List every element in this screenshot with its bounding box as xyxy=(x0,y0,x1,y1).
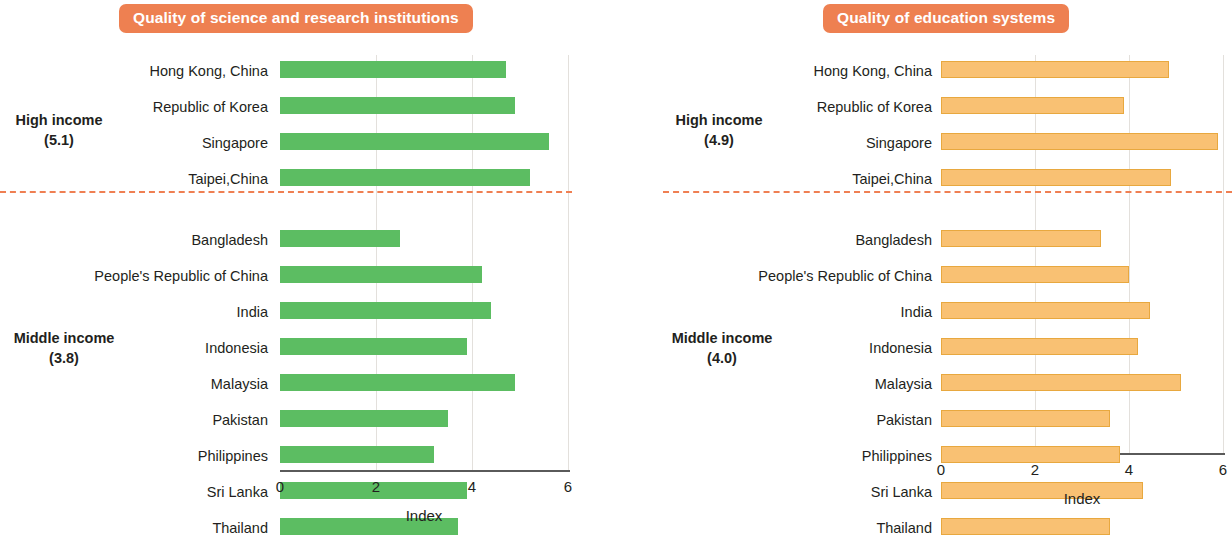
chart-panel-education: Quality of education systems High income… xyxy=(616,0,1232,528)
bar-row xyxy=(280,230,572,247)
category-label-indonesia: Indonesia xyxy=(869,341,932,356)
bar-row xyxy=(941,97,1223,114)
bar-philippines xyxy=(280,446,434,463)
bar-bangladesh xyxy=(280,230,400,247)
category-label-taipei-china: Taipei,China xyxy=(852,172,932,187)
category-label-thailand: Thailand xyxy=(212,521,268,536)
bar-malaysia xyxy=(280,374,515,391)
category-label-pakistan: Pakistan xyxy=(876,413,932,428)
x-axis-title: Index xyxy=(406,507,443,524)
gridline-6 xyxy=(1223,55,1224,453)
x-axis-line xyxy=(280,470,570,472)
x-tick-6: 6 xyxy=(564,478,572,495)
category-label-india: India xyxy=(901,305,932,320)
category-label-people-s-republic-of-china: People's Republic of China xyxy=(94,269,268,284)
bar-hong-kong-china xyxy=(941,61,1169,78)
gridline-2 xyxy=(376,55,377,470)
bar-republic-of-korea xyxy=(280,97,515,114)
gridline-4 xyxy=(1129,55,1130,453)
group-label-middle-income-text: Middle income xyxy=(14,330,115,346)
bar-bangladesh xyxy=(941,230,1101,247)
bar-row xyxy=(280,482,572,499)
chart-title-badge-science: Quality of science and research institut… xyxy=(119,4,473,33)
category-label-malaysia: Malaysia xyxy=(211,377,268,392)
bar-row xyxy=(941,266,1223,283)
x-tick-0: 0 xyxy=(937,461,945,478)
chart-title-badge-education: Quality of education systems xyxy=(823,4,1069,33)
plot-area-education xyxy=(941,55,1223,453)
bar-taipei-china xyxy=(280,169,530,186)
income-group-divider-science xyxy=(0,191,572,193)
bar-row xyxy=(280,133,572,150)
bar-row xyxy=(280,338,572,355)
gridline-2 xyxy=(1035,55,1036,453)
group-label-middle-income-science: Middle income (3.8) xyxy=(0,329,128,368)
chart-panel-science: Quality of science and research institut… xyxy=(0,0,616,528)
category-label-people-s-republic-of-china: People's Republic of China xyxy=(758,269,932,284)
bar-row xyxy=(280,410,572,427)
group-label-middle-income-education: Middle income (4.0) xyxy=(658,329,786,368)
category-label-taipei-china: Taipei,China xyxy=(188,172,268,187)
bar-people-s-republic-of-china xyxy=(941,266,1129,283)
x-tick-6: 6 xyxy=(1219,461,1227,478)
bar-india xyxy=(941,302,1150,319)
bar-row xyxy=(280,266,572,283)
bar-indonesia xyxy=(280,338,467,355)
bar-row xyxy=(941,61,1223,78)
bar-row xyxy=(941,133,1223,150)
bar-india xyxy=(280,302,491,319)
bar-row xyxy=(280,374,572,391)
category-label-thailand: Thailand xyxy=(876,521,932,536)
category-label-republic-of-korea: Republic of Korea xyxy=(153,100,268,115)
category-label-pakistan: Pakistan xyxy=(212,413,268,428)
category-label-hong-kong-china: Hong Kong, China xyxy=(814,64,933,79)
bar-thailand xyxy=(941,518,1110,535)
income-group-divider-education xyxy=(663,191,1232,193)
bar-row xyxy=(280,446,572,463)
category-label-singapore: Singapore xyxy=(202,136,268,151)
category-label-singapore: Singapore xyxy=(866,136,932,151)
bar-singapore xyxy=(941,133,1218,150)
bar-row xyxy=(941,446,1223,463)
x-tick-0: 0 xyxy=(276,478,284,495)
category-label-sri-lanka: Sri Lanka xyxy=(871,485,932,500)
bar-row xyxy=(280,97,572,114)
bar-pakistan xyxy=(941,410,1110,427)
category-label-philippines: Philippines xyxy=(198,449,268,464)
bar-row xyxy=(941,338,1223,355)
group-label-high-income-education: High income (4.9) xyxy=(664,111,774,150)
group-label-high-income-text: High income xyxy=(675,112,762,128)
gridline-6 xyxy=(568,55,569,470)
bar-republic-of-korea xyxy=(941,97,1124,114)
category-label-indonesia: Indonesia xyxy=(205,341,268,356)
x-tick-2: 2 xyxy=(372,478,380,495)
bar-malaysia xyxy=(941,374,1181,391)
category-label-india: India xyxy=(237,305,268,320)
group-label-high-income-value: (5.1) xyxy=(4,131,114,151)
bar-hong-kong-china xyxy=(280,61,506,78)
category-label-hong-kong-china: Hong Kong, China xyxy=(150,64,269,79)
gridline-4 xyxy=(472,55,473,470)
group-label-high-income-value: (4.9) xyxy=(664,131,774,151)
category-label-bangladesh: Bangladesh xyxy=(191,233,268,248)
bar-sri-lanka xyxy=(941,482,1143,499)
bar-row xyxy=(941,302,1223,319)
group-label-middle-income-value: (3.8) xyxy=(0,349,128,369)
bar-people-s-republic-of-china xyxy=(280,266,482,283)
bar-row xyxy=(941,230,1223,247)
plot-area-science xyxy=(280,55,572,470)
bar-row xyxy=(280,61,572,78)
bar-row xyxy=(941,518,1223,535)
category-label-philippines: Philippines xyxy=(862,449,932,464)
category-label-sri-lanka: Sri Lanka xyxy=(207,485,268,500)
bar-pakistan xyxy=(280,410,448,427)
group-label-middle-income-text: Middle income xyxy=(672,330,773,346)
bar-row xyxy=(280,169,572,186)
group-label-high-income-text: High income xyxy=(15,112,102,128)
x-axis-title: Index xyxy=(1064,490,1101,507)
bar-row xyxy=(280,302,572,319)
bar-singapore xyxy=(280,133,549,150)
bar-row xyxy=(941,169,1223,186)
x-tick-2: 2 xyxy=(1031,461,1039,478)
group-label-middle-income-value: (4.0) xyxy=(658,349,786,369)
